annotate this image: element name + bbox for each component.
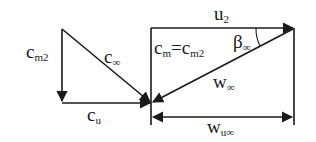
label-cm2: cm2: [26, 41, 49, 63]
label-cu: cu: [87, 104, 101, 126]
label-c-inf: c∞: [104, 46, 120, 68]
label-u2: u2: [214, 3, 229, 25]
label-wu-inf: wu∞: [207, 116, 234, 138]
beta-angle-arc: [256, 28, 260, 46]
label-beta-inf: β∞: [233, 31, 251, 53]
velocity-triangle-diagram: cm2 c∞ cu u2 cm=cm2 β∞ w∞ wu∞: [0, 0, 316, 142]
label-w-inf: w∞: [213, 71, 235, 93]
label-cm-equals-cm2: cm=cm2: [154, 37, 204, 59]
